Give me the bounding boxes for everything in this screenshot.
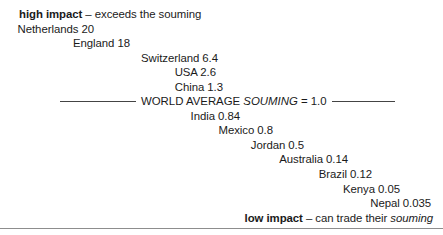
world-average-term: SOUMING <box>243 95 297 107</box>
figure-bottom-rule <box>0 228 443 229</box>
ladder-row-label: India 0.84 <box>191 110 240 122</box>
ladder-row-label: USA 2.6 <box>175 66 216 78</box>
ladder-row-label: Nepal 0.035 <box>370 197 431 209</box>
world-average-value: = 1.0 <box>298 95 327 107</box>
ladder-row-label: Switzerland 6.4 <box>141 52 218 64</box>
ladder-row-label: Jordan 0.5 <box>251 139 304 151</box>
low-impact-text: can trade their <box>315 212 390 224</box>
ladder-row-label: England 18 <box>73 37 130 49</box>
ladder-row-china: China 1.3 <box>9 80 434 95</box>
ladder-row-nepal: Nepal 0.035 <box>9 196 434 211</box>
ladder-row-label: Brazil 0.12 <box>319 168 372 180</box>
ladder-row-kenya: Kenya 0.05 <box>9 182 434 197</box>
high-impact-dash: – <box>82 8 94 20</box>
low-impact-label: low impact <box>245 212 303 224</box>
ladder-row-england: England 18 <box>9 36 434 51</box>
ladder-row-label: Kenya 0.05 <box>343 183 400 195</box>
ladder-row-label: Netherlands 20 <box>18 23 94 35</box>
ladder-row-australia: Australia 0.14 <box>9 152 434 167</box>
ladder-row-india: India 0.84 <box>9 109 434 124</box>
ladder-row-label: Australia 0.14 <box>279 153 348 165</box>
divider-rule-right <box>332 101 395 102</box>
ladder-row-switzerland: Switzerland 6.4 <box>9 51 434 66</box>
world-average-prefix: WORLD AVERAGE <box>141 95 243 107</box>
ladder-list: high impact – exceeds the souming Nether… <box>0 0 443 225</box>
high-impact-label: high impact <box>19 8 82 20</box>
low-impact-caption: low impact – can trade their souming <box>9 211 434 226</box>
ladder-row-mexico: Mexico 0.8 <box>9 123 434 138</box>
high-impact-caption: high impact – exceeds the souming <box>9 7 434 22</box>
world-average-label: WORLD AVERAGE SOUMING = 1.0 <box>141 94 327 109</box>
ladder-row-jordan: Jordan 0.5 <box>9 138 434 153</box>
ladder-row-usa: USA 2.6 <box>9 65 434 80</box>
ladder-row-brazil: Brazil 0.12 <box>9 167 434 182</box>
ladder-row-label: China 1.3 <box>175 81 223 93</box>
low-impact-dash: – <box>303 212 315 224</box>
divider-rule-left <box>60 101 136 102</box>
low-impact-term: souming <box>390 212 433 224</box>
souming-ladder-figure: high impact – exceeds the souming Nether… <box>0 0 443 235</box>
world-average-divider: WORLD AVERAGE SOUMING = 1.0 <box>9 94 434 109</box>
ladder-row-label: Mexico 0.8 <box>219 124 273 136</box>
high-impact-text: exceeds the souming <box>95 8 202 20</box>
ladder-row-netherlands: Netherlands 20 <box>9 22 434 37</box>
